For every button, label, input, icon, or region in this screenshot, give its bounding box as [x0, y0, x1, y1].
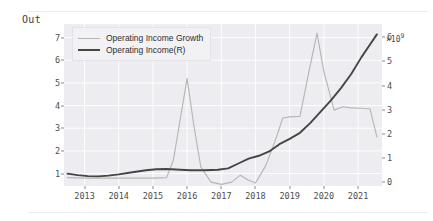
- legend-swatch-growth: [78, 38, 100, 39]
- x-axis-tick-label: 2020: [314, 191, 334, 201]
- left-axis-tick-mark: [61, 37, 64, 38]
- right-axis-tick-mark: [382, 158, 385, 159]
- x-axis-tick-label: 2018: [245, 191, 265, 201]
- plot-area: 1234567012345620132014201520162017201820…: [64, 24, 382, 186]
- x-axis-tick-label: 2014: [108, 191, 128, 201]
- left-axis-tick-mark: [61, 60, 64, 61]
- right-axis-tick-mark: [382, 61, 385, 62]
- legend-swatch-income: [78, 49, 100, 51]
- legend-label-income: Operating Income(R): [106, 45, 185, 55]
- left-axis-tick-label: 3: [55, 123, 60, 133]
- x-axis-tick-mark: [221, 186, 222, 189]
- left-axis-tick-mark: [61, 105, 64, 106]
- right-axis-tick-label: 4: [387, 81, 392, 91]
- right-axis-exponent-power: 9: [400, 32, 404, 40]
- right-axis-tick-mark: [382, 85, 385, 86]
- x-axis-tick-label: 2013: [74, 191, 94, 201]
- left-axis-tick-label: 7: [55, 33, 60, 43]
- x-axis-tick-mark: [187, 186, 188, 189]
- x-axis-tick-label: 2019: [279, 191, 299, 201]
- chart-figure: ×109 12345670123456201320142015201620172…: [0, 18, 433, 206]
- left-axis-tick-label: 2: [55, 146, 60, 156]
- left-axis-tick-label: 5: [55, 78, 60, 88]
- right-axis-tick-label: 5: [387, 56, 392, 66]
- x-axis-tick-mark: [289, 186, 290, 189]
- left-axis-tick-label: 4: [55, 101, 60, 111]
- x-axis-tick-mark: [255, 186, 256, 189]
- right-axis-tick-mark: [382, 109, 385, 110]
- right-axis-tick-mark: [382, 37, 385, 38]
- right-axis-tick-label: 3: [387, 105, 392, 115]
- right-axis-tick-label: 1: [387, 153, 392, 163]
- left-axis-tick-label: 1: [55, 169, 60, 179]
- left-axis-tick-mark: [61, 150, 64, 151]
- x-axis-tick-mark: [358, 186, 359, 189]
- legend-entry-operating-income: Operating Income(R): [78, 44, 203, 56]
- legend-entry-operating-income-growth: Operating Income Growth: [78, 32, 203, 44]
- x-axis-tick-label: 2016: [177, 191, 197, 201]
- x-axis-tick-mark: [118, 186, 119, 189]
- left-axis-tick-mark: [61, 173, 64, 174]
- x-axis-tick-label: 2015: [143, 191, 163, 201]
- right-axis-tick-mark: [382, 134, 385, 135]
- left-axis-tick-label: 6: [55, 55, 60, 65]
- left-axis-tick-mark: [61, 128, 64, 129]
- x-axis-tick-mark: [152, 186, 153, 189]
- legend-label-growth: Operating Income Growth: [106, 33, 203, 43]
- x-axis-tick-mark: [84, 186, 85, 189]
- right-axis-tick-label: 6: [387, 32, 392, 42]
- right-axis-tick-label: 2: [387, 129, 392, 139]
- right-axis-tick-label: 0: [387, 177, 392, 187]
- notebook-output-cell: Out ×109 1234567012345620132014201520162…: [0, 0, 433, 221]
- x-axis-tick-mark: [323, 186, 324, 189]
- x-axis-tick-label: 2017: [211, 191, 231, 201]
- chart-legend: Operating Income Growth Operating Income…: [72, 27, 211, 61]
- left-axis-tick-mark: [61, 82, 64, 83]
- right-axis-tick-mark: [382, 182, 385, 183]
- cell-divider-top: [28, 11, 428, 12]
- x-axis-tick-label: 2021: [348, 191, 368, 201]
- cell-divider-bottom: [28, 212, 428, 213]
